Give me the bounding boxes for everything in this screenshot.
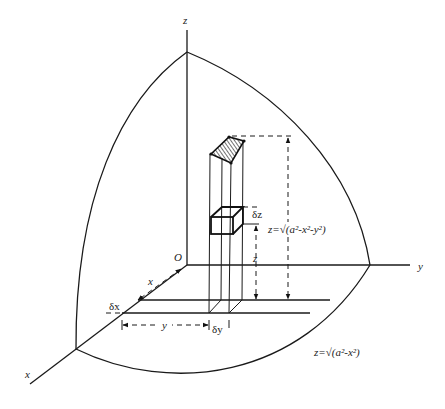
surface-equation: z=√(a²-x²-y²) xyxy=(266,222,346,236)
arc-zx-plane xyxy=(76,52,187,349)
column-base-right-edge xyxy=(229,300,242,313)
z-axis-label: z xyxy=(182,14,188,26)
y-axis-label: y xyxy=(417,260,423,272)
column-edge-3 xyxy=(229,162,231,313)
y-distance-label: y xyxy=(161,319,167,331)
sphere-boundary xyxy=(76,52,370,373)
base-strip xyxy=(122,300,330,313)
dx-label: δx xyxy=(109,300,120,312)
origin-label: O xyxy=(174,251,182,263)
x-axis-label: x xyxy=(24,368,30,380)
column-edge-1 xyxy=(209,154,210,313)
x-distance-label: x xyxy=(147,275,153,287)
svg-text:z=√(a²-x²-y²): z=√(a²-x²-y²) xyxy=(267,223,326,236)
surface-patch xyxy=(211,137,244,163)
column-base-left-edge xyxy=(209,300,221,313)
volume-element-box xyxy=(211,207,243,234)
boundary-equation: z=√(a²-x²) xyxy=(313,346,360,359)
dy-label: δy xyxy=(212,323,223,335)
sphere-octant-diagram: z y x O δ xyxy=(0,0,445,409)
vertical-column xyxy=(209,141,243,313)
column-edge-2 xyxy=(221,158,222,300)
svg-text:z=√(a²-x²): z=√(a²-x²) xyxy=(313,346,360,359)
z-height-label: z xyxy=(252,252,258,264)
dz-label: δz xyxy=(252,208,262,220)
